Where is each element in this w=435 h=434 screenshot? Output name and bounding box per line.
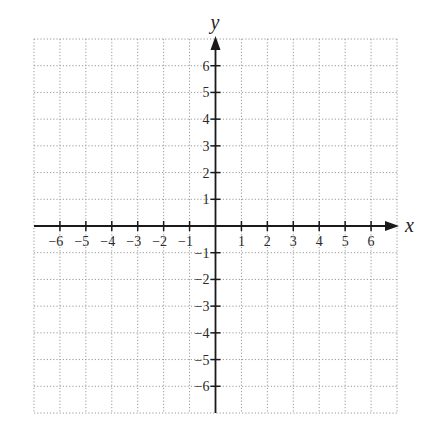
y-tick-label: −5 [195, 353, 210, 368]
x-tick-label: 3 [290, 234, 297, 249]
y-tick-label: 6 [203, 59, 210, 74]
y-axis-arrow-icon [211, 36, 221, 50]
x-tick-label: 6 [368, 234, 375, 249]
x-tick-label: −4 [100, 234, 115, 249]
y-tick-label: 1 [203, 192, 210, 207]
y-tick-label: −4 [195, 326, 210, 341]
y-tick-label: 3 [203, 139, 210, 154]
x-tick-label: 4 [316, 234, 323, 249]
coordinate-plane: −6−5−4−3−2−1123456−6−5−4−3−2−1123456 x y [0, 0, 435, 434]
x-tick-label: −2 [152, 234, 167, 249]
x-tick-label: −5 [74, 234, 89, 249]
y-tick-label: 2 [203, 166, 210, 181]
y-tick-label: −6 [195, 379, 210, 394]
x-tick-label: −6 [48, 234, 63, 249]
x-tick-label: 2 [264, 234, 271, 249]
y-axis-label: y [209, 11, 220, 34]
x-tick-label: −3 [126, 234, 141, 249]
y-tick-label: −3 [195, 299, 210, 314]
x-tick-label: 1 [238, 234, 245, 249]
x-axis-label: x [404, 214, 414, 236]
y-tick-label: −1 [195, 246, 210, 261]
y-tick-label: −2 [195, 272, 210, 287]
x-tick-label: 5 [342, 234, 349, 249]
y-tick-label: 4 [203, 112, 210, 127]
y-tick-label: 5 [203, 85, 210, 100]
x-tick-label: −1 [178, 234, 193, 249]
